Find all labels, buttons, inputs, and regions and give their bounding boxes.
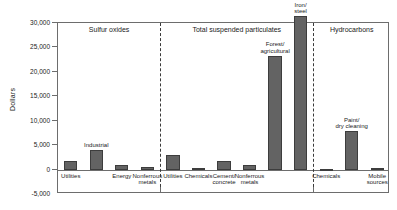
zero-baseline	[58, 170, 388, 171]
y-axis-tick-label: 10,000	[14, 116, 50, 123]
bar	[64, 161, 77, 170]
bar	[268, 56, 281, 170]
bar	[320, 169, 333, 171]
bar-label: Iron/ steel	[294, 2, 307, 15]
y-axis-tick-label: 15,000	[14, 92, 50, 99]
bar-label: Mobile sources	[367, 173, 388, 186]
panel-title: Total suspended particulates	[192, 26, 281, 33]
panel-divider	[313, 23, 314, 192]
bar-label: Cement/ concrete	[212, 173, 235, 186]
bar-label: Forest/ agricultural	[260, 41, 289, 54]
y-axis-tick-label: 0	[14, 165, 50, 172]
bar	[294, 16, 307, 169]
plot-area: Sulfur oxidesTotal suspended particulate…	[57, 22, 389, 193]
bar	[166, 155, 179, 170]
bar-label: Energy	[112, 173, 131, 180]
bar	[90, 150, 103, 170]
panel-divider-axis-tick	[160, 187, 161, 193]
panel-title: Sulfur oxides	[89, 26, 129, 33]
bar-label: Industrial	[84, 142, 108, 149]
bar	[243, 165, 256, 170]
bar	[371, 168, 384, 170]
y-axis-tick-label: -5,000	[14, 190, 50, 197]
panel-divider-axis-tick	[313, 187, 314, 193]
bar	[217, 161, 230, 169]
y-axis-tick-label: 20,000	[14, 67, 50, 74]
bar	[115, 165, 128, 169]
bar-label: Nonferrous metals	[133, 173, 163, 186]
bar-label: Utilities	[61, 173, 80, 180]
bar-label: Chemicals	[312, 173, 340, 180]
bar-chart: Dollars 30,00025,00020,00015,00010,0005,…	[0, 0, 397, 210]
bar-label: Chemicals	[184, 173, 212, 180]
bar-label: Nonferrous metals	[235, 173, 265, 186]
y-axis-tick-label: 30,000	[14, 19, 50, 26]
bar-label: Utilities	[163, 173, 182, 180]
bar	[141, 167, 154, 169]
y-axis-tick-label: 25,000	[14, 43, 50, 50]
bar-label: Paint/ dry cleaning	[336, 117, 368, 130]
panel-divider	[160, 23, 161, 192]
bar	[345, 131, 358, 169]
y-axis-tick-label: 5,000	[14, 141, 50, 148]
bar	[192, 168, 205, 170]
panel-title: Hydrocarbons	[330, 26, 374, 33]
